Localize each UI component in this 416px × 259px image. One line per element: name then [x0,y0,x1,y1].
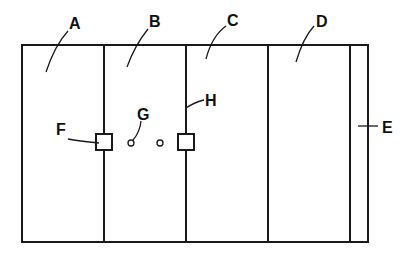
connector-h [178,134,194,150]
diagram-canvas: A B C D E F G H [0,0,416,259]
label-d: D [316,13,328,30]
label-g: G [137,106,149,123]
leader-a [46,31,68,72]
leader-h [186,100,204,108]
label-f: F [56,121,66,138]
label-b: B [149,13,161,30]
leader-c [206,26,226,59]
leader-f [68,139,99,143]
circle-g-1 [128,140,134,146]
leader-g [133,121,141,140]
label-a: A [69,15,81,32]
label-e: E [382,119,393,136]
label-c: C [227,12,239,29]
leader-b [127,29,148,67]
circle-g-2 [157,140,163,146]
label-h: H [205,92,217,109]
connector-f [96,134,112,150]
